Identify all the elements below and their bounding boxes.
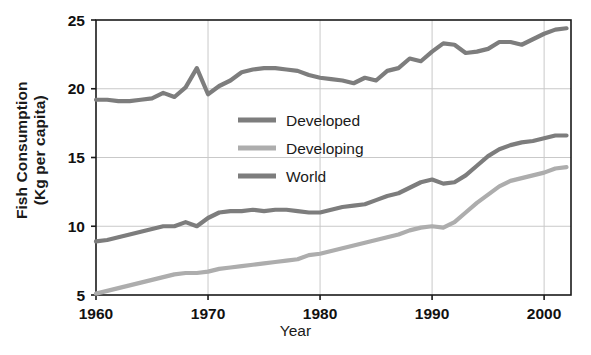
tick-marks [91,20,544,300]
series-lines [96,28,567,293]
y-tick-label: 15 [68,149,86,166]
y-tick-label: 10 [68,218,85,235]
series-line-developing [96,167,567,294]
gridlines [96,20,571,295]
legend-label-developed: Developed [286,112,360,129]
x-tick-label: 1960 [79,305,113,322]
x-tick-label: 1980 [303,305,337,322]
y-tick-labels: 510152025 [68,12,86,304]
series-line-developed [96,28,567,101]
y-tick-label: 20 [68,80,85,97]
x-tick-label: 1970 [191,305,225,322]
x-tick-label: 2000 [527,305,561,322]
legend: DevelopedDevelopingWorld [238,112,364,185]
y-tick-label: 25 [68,12,86,29]
x-tick-labels: 19601970198019902000 [79,305,562,322]
plot-area: 510152025 19601970198019902000 Developed… [0,0,591,355]
legend-label-developing: Developing [286,140,364,157]
legend-label-world: World [286,168,326,185]
x-axis-label: Year [0,322,591,340]
x-tick-label: 1990 [415,305,449,322]
fish-consumption-chart: Fish Consumption (Kg per capita) 5101520… [0,0,591,355]
y-tick-label: 5 [76,287,85,304]
